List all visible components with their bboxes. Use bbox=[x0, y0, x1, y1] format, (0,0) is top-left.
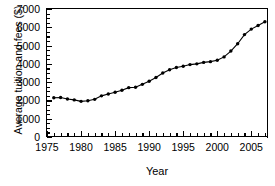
data-point bbox=[263, 20, 266, 23]
y-tick-label: 4000 bbox=[17, 58, 40, 70]
x-tick-label: 2000 bbox=[206, 141, 229, 153]
data-point bbox=[73, 98, 76, 101]
data-point bbox=[107, 92, 110, 95]
data-point bbox=[79, 100, 82, 103]
data-point bbox=[120, 88, 123, 91]
data-point bbox=[250, 27, 253, 30]
data-point bbox=[222, 55, 225, 58]
plot-area: 01000200030004000500060007000 1975198019… bbox=[46, 9, 268, 137]
data-point bbox=[182, 65, 185, 68]
data-point bbox=[93, 98, 96, 101]
data-point bbox=[154, 76, 157, 79]
data-point bbox=[52, 96, 55, 99]
tuition-line bbox=[54, 22, 265, 102]
data-point bbox=[134, 86, 137, 89]
data-point bbox=[188, 63, 191, 66]
x-tick-label: 1990 bbox=[137, 141, 160, 153]
x-axis-title: Year bbox=[46, 165, 268, 177]
chart-figure: Average tuition and fees ($) Year 010002… bbox=[0, 0, 275, 186]
data-point bbox=[202, 61, 205, 64]
x-tick-label: 2005 bbox=[240, 141, 263, 153]
data-point bbox=[59, 96, 62, 99]
data-point bbox=[229, 49, 232, 52]
y-tick-label: 2000 bbox=[17, 94, 40, 106]
data-point bbox=[209, 60, 212, 63]
data-point bbox=[161, 71, 164, 74]
y-tick-label: 6000 bbox=[17, 21, 40, 33]
tuition-markers bbox=[52, 20, 266, 103]
y-tick-label: 5000 bbox=[17, 40, 40, 52]
data-point bbox=[216, 59, 219, 62]
data-point bbox=[147, 80, 150, 83]
x-tick-label: 1995 bbox=[172, 141, 195, 153]
y-tick-label: 7000 bbox=[17, 3, 40, 15]
x-tick-label: 1980 bbox=[69, 141, 92, 153]
data-point bbox=[168, 68, 171, 71]
y-tick-major bbox=[47, 137, 52, 138]
data-point bbox=[243, 33, 246, 36]
data-point bbox=[141, 83, 144, 86]
x-tick-label: 1985 bbox=[103, 141, 126, 153]
data-point bbox=[66, 97, 69, 100]
y-tick-label: 3000 bbox=[17, 76, 40, 88]
x-tick-label: 1975 bbox=[35, 141, 58, 153]
data-point bbox=[86, 99, 89, 102]
data-point bbox=[236, 42, 239, 45]
data-series-layer bbox=[47, 9, 269, 137]
data-point bbox=[113, 91, 116, 94]
y-tick-label: 1000 bbox=[17, 113, 40, 125]
data-point bbox=[195, 62, 198, 65]
data-point bbox=[100, 94, 103, 97]
data-point bbox=[175, 66, 178, 69]
data-point bbox=[127, 86, 130, 89]
data-point bbox=[256, 24, 259, 27]
